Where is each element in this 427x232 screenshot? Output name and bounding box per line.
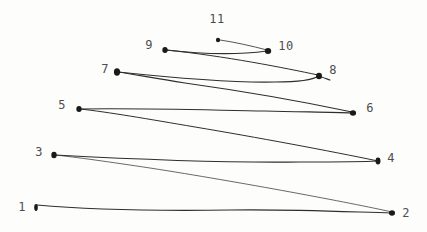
dot-label-10: 10 [278,39,293,53]
trail-dot-8 [316,73,322,80]
trail-dot-7 [114,68,120,75]
drawing-canvas: 1234567891011 [0,0,427,232]
dot-label-3: 3 [35,145,43,159]
dot-label-2: 2 [402,206,410,220]
canvas-background [0,0,427,232]
trail-dot-9 [162,47,167,53]
dot-label-5: 5 [58,98,66,112]
trail-drawing: 1234567891011 [0,0,427,232]
trail-dot-4 [376,158,381,165]
dot-label-9: 9 [145,38,153,52]
trail-dot-1 [34,204,38,211]
trail-dot-10 [265,48,271,54]
dot-label-7: 7 [101,62,109,76]
trail-dot-3 [51,152,56,158]
dot-label-1: 1 [18,200,26,214]
dot-label-8: 8 [329,63,337,77]
trail-dot-6 [350,110,356,116]
dot-label-4: 4 [387,151,395,165]
trail-dot-11 [216,38,220,43]
trail-dot-2 [389,210,395,215]
dot-label-6: 6 [366,101,374,115]
dot-label-11: 11 [209,12,224,26]
trail-dot-5 [76,106,81,112]
